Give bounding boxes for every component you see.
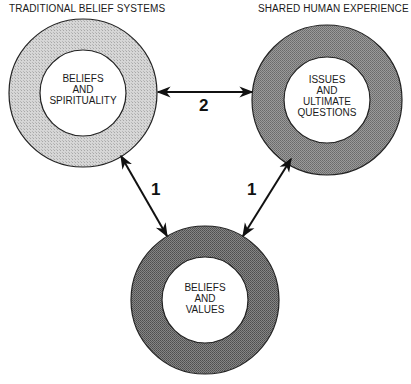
edge-label-2: 2 — [199, 96, 208, 116]
edge-label-1-right: 1 — [247, 180, 256, 200]
diagram-canvas — [0, 0, 411, 384]
heading-traditional-belief-systems: TRADITIONAL BELIEF SYSTEMS — [9, 3, 165, 14]
node-label-issues-questions: ISSUES AND ULTIMATE QUESTIONS — [287, 74, 367, 118]
heading-shared-human-experience: SHARED HUMAN EXPERIENCE — [258, 3, 409, 14]
node-label-beliefs-spirituality: BELIEFS AND SPIRITUALITY — [43, 73, 123, 106]
node-label-beliefs-values: BELIEFS AND VALUES — [165, 282, 245, 315]
edge-label-1-left: 1 — [151, 180, 160, 200]
